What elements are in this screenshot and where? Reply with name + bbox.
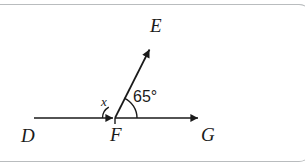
ray-FE: [115, 50, 150, 119]
point-label-G: G: [201, 125, 215, 144]
angle-label-x: x: [101, 95, 107, 108]
point-label-E: E: [150, 16, 162, 35]
diagram-root: D F G E x 65°: [0, 0, 305, 167]
point-label-F: F: [110, 125, 122, 144]
angle-label-65: 65°: [133, 89, 157, 105]
point-label-D: D: [21, 126, 35, 145]
